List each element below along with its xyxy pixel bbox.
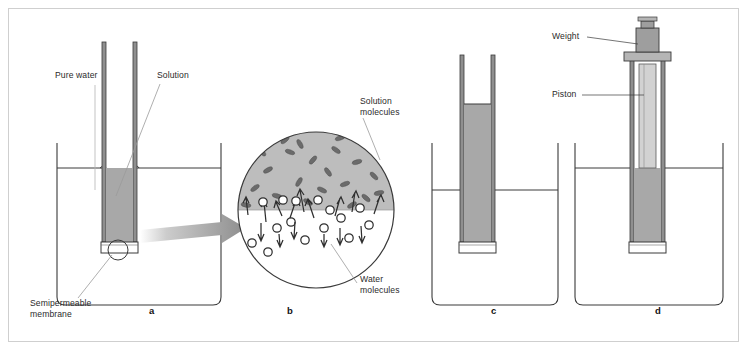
panel-letter-d: d — [655, 305, 661, 316]
solution-column-c — [464, 104, 491, 242]
piston-rod — [639, 64, 656, 168]
solution-column-d — [634, 168, 661, 242]
panel-letter-b: b — [287, 305, 293, 316]
weight-cap — [638, 17, 657, 21]
weight-label: Weight — [552, 31, 579, 42]
membrane-cap-d — [629, 242, 666, 253]
leader-membrane — [78, 255, 112, 298]
panel-letter-c: c — [491, 305, 496, 316]
tube-wall-d-left — [630, 58, 634, 242]
membrane-cap-a — [101, 242, 138, 253]
tube-wall-c-left — [460, 55, 464, 242]
solution-molecules-label: Solution molecules — [360, 96, 400, 118]
leader-weight — [587, 37, 638, 44]
tube-wall-a-right — [133, 42, 137, 242]
figure-drawing — [0, 0, 749, 352]
tube-wall-a-left — [102, 42, 106, 242]
tube-wall-c-right — [491, 55, 495, 242]
panel-letter-a: a — [149, 305, 154, 316]
tube-wall-d-right — [661, 58, 665, 242]
piston-flange — [624, 52, 671, 61]
leader-solution — [116, 84, 160, 196]
panel-d-group — [575, 17, 723, 305]
pure-water-label: Pure water — [55, 70, 98, 81]
weight-knob — [641, 21, 654, 28]
osmosis-figure: Pure water Solution Semipermeable membra… — [0, 0, 749, 352]
semipermeable-membrane-label: Semipermeable membrane — [30, 298, 92, 320]
solution-column-a — [106, 168, 133, 242]
panel-a-group — [57, 42, 221, 305]
water-molecules-label: Water molecules — [360, 274, 400, 296]
panel-b-group — [238, 118, 394, 288]
piston-label: Piston — [552, 89, 577, 100]
weight-body — [636, 28, 659, 52]
membrane-cap-c — [459, 242, 496, 253]
panel-c-group — [432, 55, 558, 305]
magnify-arrow — [140, 214, 246, 243]
solution-label: Solution — [157, 70, 189, 81]
